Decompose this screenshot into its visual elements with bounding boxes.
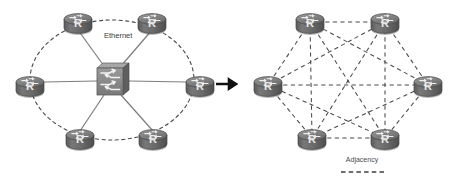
- router-node[interactable]: R: [298, 130, 326, 151]
- router-label: R: [308, 133, 316, 145]
- transition-arrow: [216, 80, 236, 89]
- link-router-to-switch: [80, 95, 104, 131]
- network-topology-figure: R R R R R R Ethernet: [0, 0, 463, 178]
- router-node[interactable]: R: [66, 130, 94, 151]
- adjacency-legend: Adjacency: [341, 156, 384, 172]
- router-node[interactable]: R: [371, 14, 399, 35]
- router-label: R: [149, 133, 157, 145]
- router-label: R: [196, 80, 204, 92]
- adjacency-link: [310, 22, 428, 85]
- adjacency-link: [268, 22, 385, 85]
- adjacency-link: [312, 85, 428, 138]
- router-label: R: [381, 133, 389, 145]
- left-panel-ethernet-topology: R R R R R R Ethernet: [16, 14, 214, 151]
- router-node[interactable]: R: [138, 14, 166, 35]
- router-node[interactable]: R: [296, 14, 324, 35]
- right-panel-mesh-topology: R R R R R R Adjacency: [254, 14, 442, 172]
- link-router-to-switch: [129, 81, 186, 82]
- adjacency-legend-label: Adjacency: [346, 156, 379, 164]
- router-label: R: [381, 17, 389, 29]
- router-label: R: [148, 17, 156, 29]
- router-label: R: [424, 80, 432, 92]
- router-label: R: [264, 80, 272, 92]
- link-router-to-switch: [78, 30, 104, 66]
- ethernet-label: Ethernet: [104, 31, 133, 40]
- router-node[interactable]: R: [139, 130, 167, 151]
- router-label: R: [26, 80, 34, 92]
- router-node[interactable]: R: [414, 77, 442, 98]
- router-node[interactable]: R: [371, 130, 399, 151]
- router-label: R: [74, 17, 82, 29]
- router-node[interactable]: R: [186, 77, 214, 98]
- ethernet-switch[interactable]: [97, 63, 129, 95]
- figure-canvas: R R R R R R Ethernet: [0, 0, 463, 178]
- router-node[interactable]: R: [254, 77, 282, 98]
- adjacency-link: [310, 22, 312, 138]
- adjacency-mesh-links: [268, 22, 428, 138]
- link-router-to-switch: [121, 95, 153, 131]
- adjacency-link: [268, 85, 385, 138]
- router-label: R: [76, 133, 84, 145]
- router-node[interactable]: R: [16, 77, 44, 98]
- router-label: R: [306, 17, 314, 29]
- link-router-to-switch: [44, 81, 97, 82]
- router-node[interactable]: R: [64, 14, 92, 35]
